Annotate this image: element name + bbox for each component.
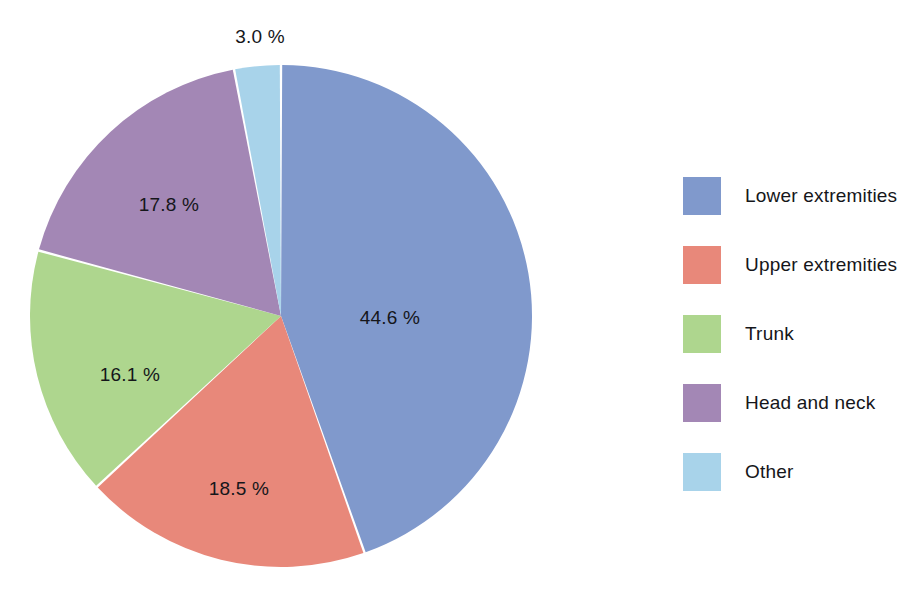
legend-item-label: Head and neck [745,392,875,414]
legend-item[interactable]: Other [683,452,898,491]
legend-color-swatch [683,177,721,215]
legend-item[interactable]: Trunk [683,314,898,353]
pie-slice-value-label: 18.5 % [209,478,269,500]
pie-chart-figure: 44.6 %18.5 %16.1 %17.8 %3.0 % Lower extr… [0,0,906,598]
legend-item-label: Trunk [745,323,794,345]
legend-item[interactable]: Lower extremities [683,176,898,215]
legend-color-swatch [683,246,721,284]
legend-item[interactable]: Head and neck [683,383,898,422]
chart-legend: Lower extremitiesUpper extremitiesTrunkH… [683,176,898,521]
legend-color-swatch [683,384,721,422]
pie-slice-value-label: 3.0 % [235,26,285,48]
legend-item[interactable]: Upper extremities [683,245,898,284]
legend-item-label: Lower extremities [745,185,897,207]
legend-item-label: Other [745,461,794,483]
legend-item-label: Upper extremities [745,254,897,276]
legend-color-swatch [683,453,721,491]
legend-color-swatch [683,315,721,353]
pie-slice-group [30,65,532,567]
pie-slice-value-label: 17.8 % [139,194,199,216]
pie-slice-value-label: 16.1 % [100,364,160,386]
pie-slice-value-label: 44.6 % [360,307,420,329]
